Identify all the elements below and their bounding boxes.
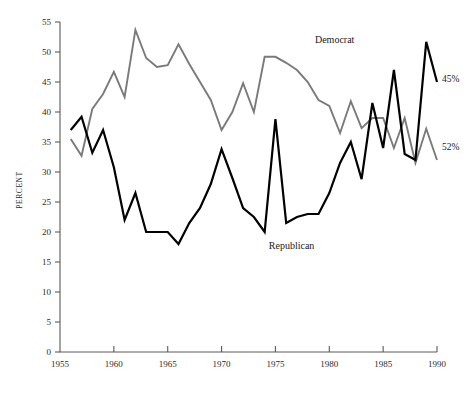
y-tick-label: 15	[42, 257, 52, 267]
x-tick-label: 1990	[428, 359, 447, 369]
series-name-annotation: Democrat	[315, 34, 355, 45]
x-tick-label: 1955	[51, 359, 70, 369]
x-tick-label: 1965	[159, 359, 178, 369]
series-name-annotation: Republican	[269, 240, 315, 251]
y-tick-label: 5	[47, 317, 52, 327]
y-tick-label: 40	[42, 107, 52, 117]
series-end-label: 45%	[442, 74, 460, 84]
x-tick-label: 1970	[213, 359, 232, 369]
y-axis-ticks: 0510152025303540455055	[42, 17, 60, 357]
x-tick-label: 1960	[105, 359, 124, 369]
series-lines	[71, 30, 437, 244]
axis-lines	[60, 22, 437, 352]
y-tick-label: 25	[42, 197, 52, 207]
line-chart: 0510152025303540455055 19551960196519701…	[0, 0, 476, 394]
y-tick-label: 50	[42, 47, 52, 57]
y-tick-label: 45	[42, 77, 52, 87]
x-tick-label: 1975	[266, 359, 285, 369]
x-tick-label: 1985	[374, 359, 393, 369]
y-tick-label: 30	[42, 167, 52, 177]
y-tick-label: 35	[42, 137, 52, 147]
x-tick-label: 1980	[320, 359, 339, 369]
axes-group	[60, 22, 437, 352]
series-line-republican	[71, 42, 437, 244]
y-tick-label: 0	[47, 347, 52, 357]
y-tick-label: 55	[42, 17, 52, 27]
y-tick-label: 20	[42, 227, 52, 237]
x-axis-ticks: 19551960196519701975198019851990	[51, 346, 447, 369]
chart-container: 0510152025303540455055 19551960196519701…	[0, 0, 476, 394]
y-axis-title: PERCENT	[15, 171, 24, 209]
y-tick-label: 10	[42, 287, 52, 297]
series-end-label: 52%	[442, 142, 460, 152]
